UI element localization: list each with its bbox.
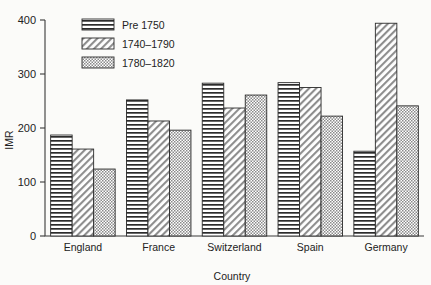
y-tick-label: 400 (18, 14, 36, 26)
category-label-spain: Spain (297, 241, 324, 253)
legend-swatch-diagonal-hatch (82, 38, 114, 49)
legend-label-1: Pre 1750 (122, 19, 165, 31)
chart-figure: 0100200300400 EnglandFranceSwitzerlandSp… (0, 0, 431, 285)
chart-legend: Pre 17501740–17901780–1820 (82, 19, 175, 69)
bar-england-3 (94, 169, 116, 236)
y-tick-label: 300 (18, 68, 36, 80)
bar-germany-2 (375, 23, 397, 236)
bar-spain-3 (321, 116, 343, 236)
bar-france-3 (169, 130, 191, 236)
bar-switzerland-2 (224, 108, 246, 236)
y-tick-label: 200 (18, 122, 36, 134)
category-label-switzerland: Switzerland (207, 241, 261, 253)
bar-france-2 (148, 121, 170, 236)
bar-england-2 (72, 149, 94, 236)
bar-chart: 0100200300400 EnglandFranceSwitzerlandSp… (0, 0, 431, 285)
legend-label-3: 1780–1820 (122, 57, 175, 69)
bar-germany-3 (397, 106, 419, 236)
category-label-england: England (64, 241, 103, 253)
y-axis-title: IMR (3, 130, 15, 150)
x-axis-title: Country (214, 270, 252, 282)
y-tick-label: 100 (18, 176, 36, 188)
bar-spain-1 (278, 83, 300, 236)
bar-switzerland-3 (245, 95, 267, 236)
bar-spain-2 (300, 88, 322, 237)
legend-swatch-dotted-fill (82, 57, 114, 68)
legend-label-2: 1740–1790 (122, 38, 175, 50)
bar-germany-1 (354, 151, 376, 236)
y-tick-label: 0 (30, 230, 36, 242)
category-label-germany: Germany (365, 241, 409, 253)
category-label-france: France (142, 241, 175, 253)
bar-switzerland-1 (202, 83, 224, 236)
bar-france-1 (126, 100, 148, 236)
bar-england-1 (51, 135, 73, 236)
legend-swatch-horizontal-lines (82, 19, 114, 30)
